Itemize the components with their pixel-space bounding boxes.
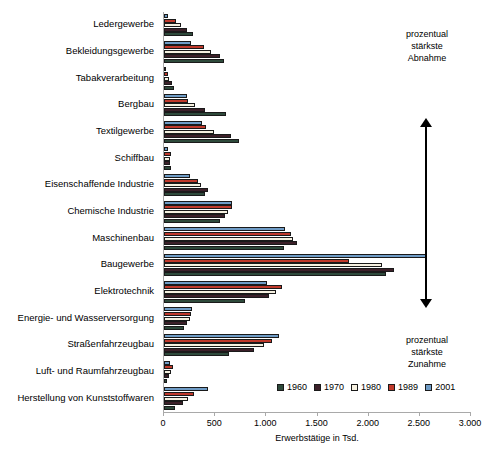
chart-category-row: Energie- und Wasserversorgung <box>0 305 486 332</box>
bar-group <box>164 94 226 117</box>
x-tick <box>419 412 420 416</box>
category-label: Elektrotechnik <box>94 286 154 296</box>
legend-item-1989[interactable]: 1989 <box>388 382 418 392</box>
bar-1989 <box>164 312 191 316</box>
bar-1980 <box>164 290 276 294</box>
annotation-bottom-increase: prozentual stärkste Zunahme <box>372 334 482 370</box>
x-tick <box>265 412 266 416</box>
category-label: Chemische Industrie <box>67 206 154 216</box>
bar-1970 <box>164 28 187 32</box>
bar-1960 <box>164 326 184 330</box>
bar-1989 <box>164 152 171 156</box>
chart-category-row: Baugewerbe <box>0 252 486 279</box>
bar-group <box>164 227 297 250</box>
chart-category-row: Elektrotechnik <box>0 279 486 306</box>
bar-1970 <box>164 321 187 325</box>
category-label: Luft- und Raumfahrzeugbau <box>36 366 154 376</box>
legend-label: 2001 <box>435 382 455 392</box>
legend-item-1970[interactable]: 1970 <box>314 382 344 392</box>
bar-1960 <box>164 32 193 36</box>
bar-1970 <box>164 108 205 112</box>
bar-1970 <box>164 241 297 245</box>
bar-1970 <box>164 401 183 405</box>
chart-category-row: Textilgewerbe <box>0 119 486 146</box>
bar-2001 <box>164 174 190 178</box>
bar-1989 <box>164 365 173 369</box>
bar-1989 <box>164 232 291 236</box>
bar-group <box>164 201 232 224</box>
trend-arrow-icon <box>418 118 434 308</box>
bar-1960 <box>164 59 224 63</box>
bar-1989 <box>164 19 176 23</box>
bar-1989 <box>164 45 204 49</box>
bar-2001 <box>164 67 166 71</box>
chart-category-row: Bergbau <box>0 92 486 119</box>
bar-group <box>164 147 171 170</box>
category-label: Tabakverarbeitung <box>76 73 154 83</box>
bar-1960 <box>164 139 239 143</box>
bar-1960 <box>164 379 167 383</box>
bar-group <box>164 14 193 37</box>
category-label: Straßenfahrzeugbau <box>67 339 154 349</box>
bar-1970 <box>164 134 231 138</box>
category-label: Energie- und Wasserversorgung <box>18 313 154 323</box>
bar-1980 <box>164 210 228 214</box>
bar-1970 <box>164 348 254 352</box>
bar-1980 <box>164 237 293 241</box>
legend-swatch-icon <box>277 384 284 391</box>
arrow-down-head-icon <box>420 299 432 308</box>
x-tick <box>470 412 471 416</box>
x-tick-label: 1.000 <box>240 418 290 428</box>
bar-group <box>164 121 239 144</box>
legend-item-2001[interactable]: 2001 <box>425 382 455 392</box>
bar-2001 <box>164 254 426 258</box>
bar-1980 <box>164 397 188 401</box>
bar-2001 <box>164 121 202 125</box>
x-tick-label: 2.500 <box>394 418 444 428</box>
bar-1989 <box>164 392 194 396</box>
annotation-bottom-line-3: Zunahme <box>372 358 482 370</box>
x-tick-label: 0 <box>138 418 188 428</box>
legend-swatch-icon <box>351 384 358 391</box>
arrow-shaft <box>425 124 427 302</box>
legend-swatch-icon <box>425 384 432 391</box>
bar-1970 <box>164 214 225 218</box>
chart-category-row: Maschinenbau <box>0 225 486 252</box>
bar-1980 <box>164 77 169 81</box>
chart-category-row: Schiffbau <box>0 145 486 172</box>
bar-1980 <box>164 23 181 27</box>
bar-2001 <box>164 147 168 151</box>
chart-category-row: Tabakverarbeitung <box>0 65 486 92</box>
bar-1980 <box>164 130 214 134</box>
category-label: Bekleidungsgewerbe <box>66 46 154 56</box>
bar-group <box>164 361 173 384</box>
bar-1970 <box>164 54 220 58</box>
legend-item-1960[interactable]: 1960 <box>277 382 307 392</box>
x-axis-title: Erwerbstätige in Tsd. <box>163 433 471 443</box>
bar-1970 <box>164 81 172 85</box>
x-tick <box>368 412 369 416</box>
bar-1980 <box>164 370 171 374</box>
bar-1989 <box>164 285 282 289</box>
bar-2001 <box>164 387 208 391</box>
annotation-bottom-line-2: stärkste <box>372 346 482 358</box>
category-label: Textilgewerbe <box>96 126 154 136</box>
annotation-top-line-1: prozentual <box>372 28 482 40</box>
legend-label: 1960 <box>287 382 307 392</box>
annotation-top-line-2: stärkste <box>372 40 482 52</box>
bar-1970 <box>164 268 394 272</box>
annotation-top-decrease: prozentual stärkste Abnahme <box>372 28 482 64</box>
bar-group <box>164 67 174 90</box>
bar-1970 <box>164 161 170 165</box>
bar-1980 <box>164 343 264 347</box>
bar-1989 <box>164 259 349 263</box>
x-tick <box>214 412 215 416</box>
bar-2001 <box>164 334 279 338</box>
bar-1970 <box>164 294 269 298</box>
legend-item-1980[interactable]: 1980 <box>351 382 381 392</box>
bar-1989 <box>164 72 168 76</box>
bar-1980 <box>164 263 382 267</box>
bar-group <box>164 174 208 197</box>
category-label: Ledergewerbe <box>93 19 154 29</box>
x-tick <box>317 412 318 416</box>
